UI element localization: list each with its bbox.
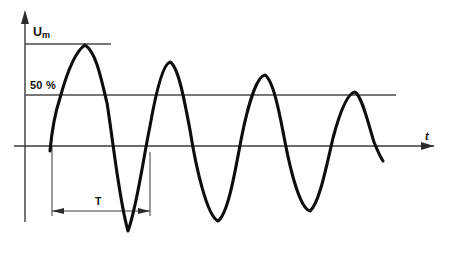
period-left-arrowhead [52, 208, 64, 214]
period-right-arrowhead [138, 208, 150, 214]
amplitude-axis-arrowhead [21, 10, 29, 24]
waveform-canvas [0, 0, 456, 266]
time-axis-label: t [425, 131, 429, 142]
amplitude-label-text: U [33, 25, 42, 39]
period-label: T [95, 196, 101, 207]
time-axis-arrowhead [421, 142, 434, 150]
amplitude-label-subscript: m [42, 30, 50, 40]
half-level-label: 50 % [30, 80, 56, 91]
amplitude-label: Um [33, 26, 50, 40]
waveform-figure: Um 50 % T t [0, 0, 456, 266]
